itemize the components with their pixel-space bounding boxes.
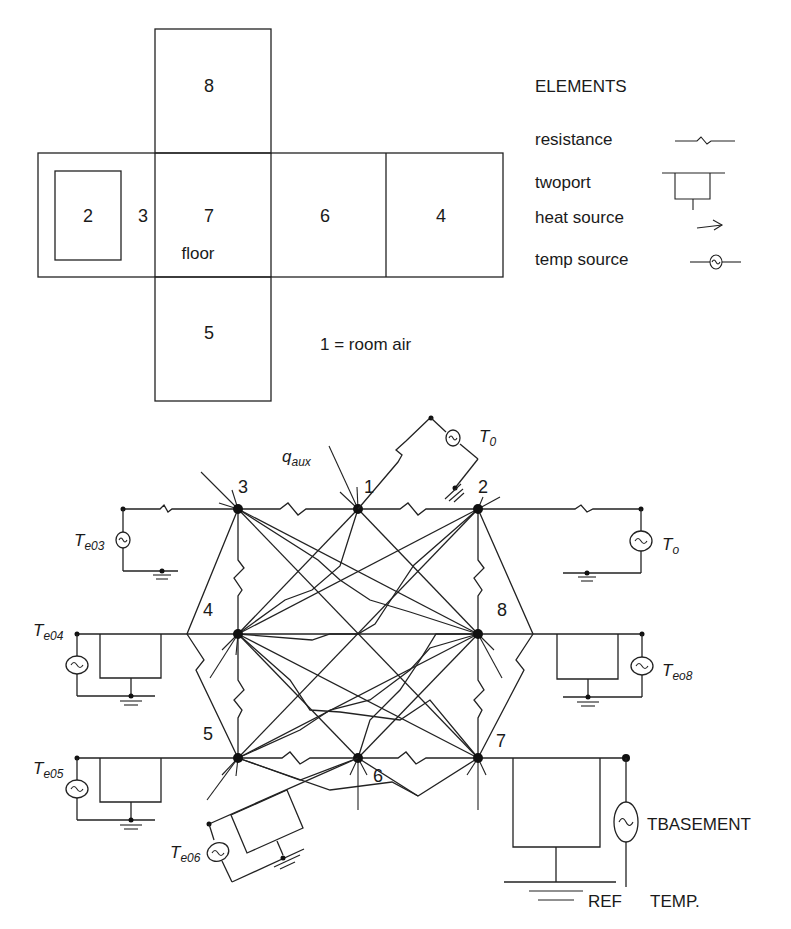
wire — [232, 849, 304, 882]
node-label-5: 5 — [203, 724, 213, 744]
node-7[interactable] — [473, 753, 483, 763]
legend-label-resistance: resistance — [535, 130, 612, 149]
wire-te03-node3 — [123, 505, 238, 512]
twoport-te05 — [100, 758, 161, 802]
room-label-4: 4 — [436, 206, 446, 226]
room-label-7: 7 — [204, 206, 214, 226]
resistance-icon — [675, 137, 735, 144]
wire — [460, 444, 478, 459]
te06-label: Te06 — [170, 843, 201, 865]
node-2[interactable] — [473, 504, 483, 514]
node-label-6: 6 — [373, 766, 383, 786]
sine-glyph — [619, 819, 633, 826]
legend-label-heat-source: heat source — [535, 208, 624, 227]
legend-label-temp-source: temp source — [535, 250, 629, 269]
wire — [222, 861, 232, 882]
sine-glyph — [212, 851, 224, 856]
ground-icon — [120, 694, 142, 706]
zigzag-2-4 — [238, 509, 478, 640]
node-label-4: 4 — [203, 600, 213, 620]
room-label-6: 6 — [320, 206, 330, 226]
resistance-3-1 — [238, 503, 358, 515]
node-8[interactable] — [473, 629, 483, 639]
twoport-te06 — [231, 790, 303, 853]
thermal-network: 1 2 3 4 5 6 7 8 qaux T0 — [33, 416, 751, 912]
wire-node2-t0 — [478, 505, 641, 512]
sine-glyph — [635, 539, 647, 544]
node-4[interactable] — [233, 629, 243, 639]
wire — [277, 841, 283, 855]
resistance-2-8 — [474, 509, 484, 634]
legend: ELEMENTS resistance twoport heat source … — [535, 77, 741, 269]
node-label-3: 3 — [238, 477, 248, 497]
resistance-4-5 — [234, 634, 244, 758]
node-5[interactable] — [233, 753, 243, 763]
room-label-2: 2 — [83, 206, 93, 226]
thermal-network-diagram: 8 2 3 7 floor 6 4 5 1 = room air ELEMENT… — [0, 0, 791, 929]
wire — [209, 824, 214, 840]
ground-icon — [578, 571, 596, 582]
room-label-5: 5 — [204, 323, 214, 343]
te08-label: Teo8 — [662, 661, 693, 683]
t0-right-label: To — [662, 535, 679, 557]
node-label-8: 8 — [497, 600, 507, 620]
resistance-3-4 — [234, 509, 244, 634]
tbasement-label: TBASEMENT — [647, 815, 751, 834]
wire — [431, 418, 446, 432]
resistance-1-2 — [358, 503, 478, 515]
ref-label: REF — [588, 892, 622, 911]
sine-glyph — [71, 663, 83, 668]
twoport-te04 — [100, 634, 161, 678]
wire-row-5-6 — [77, 752, 358, 764]
temp-label: TEMP. — [650, 892, 700, 911]
sine-glyph — [449, 436, 457, 440]
heat-source-arrow-icon — [697, 220, 722, 230]
legend-title: ELEMENTS — [535, 77, 627, 96]
legend-label-twoport: twoport — [535, 173, 591, 192]
ground-icon — [153, 569, 171, 580]
te06-branch — [204, 758, 358, 882]
sine-glyph — [71, 787, 83, 792]
room-label-3: 3 — [138, 206, 148, 226]
room-sublabel-floor: floor — [181, 244, 214, 263]
wire-row-6-7 — [358, 752, 626, 764]
te04-label: Te04 — [33, 621, 64, 643]
t0-top-label: T0 — [479, 427, 496, 449]
room-air-note: 1 = room air — [320, 335, 412, 354]
resistance-8-7 — [474, 634, 484, 758]
twoport-icon — [662, 173, 725, 210]
wire-node1-t0-resistance — [358, 418, 430, 509]
sine-glyph — [119, 538, 127, 542]
node-label-7: 7 — [496, 731, 506, 751]
link-5-7-lower — [238, 758, 418, 796]
wire-to-ground — [455, 459, 478, 488]
ground-icon — [577, 695, 599, 707]
sine-glyph — [636, 664, 648, 669]
ground-icon — [120, 818, 142, 830]
floor-plan: 8 2 3 7 floor 6 4 5 1 = room air — [38, 29, 503, 401]
q-aux-label: qaux — [282, 447, 312, 469]
twoport-basement — [513, 758, 600, 847]
twoport-te08 — [557, 634, 618, 679]
room-label-8: 8 — [204, 76, 214, 96]
te03-label: Te03 — [74, 531, 105, 553]
te05-label: Te05 — [33, 759, 64, 781]
node-label-1: 1 — [364, 477, 374, 497]
node-label-2: 2 — [478, 477, 488, 497]
node-3[interactable] — [233, 504, 243, 514]
temp-source-icon — [690, 255, 741, 269]
